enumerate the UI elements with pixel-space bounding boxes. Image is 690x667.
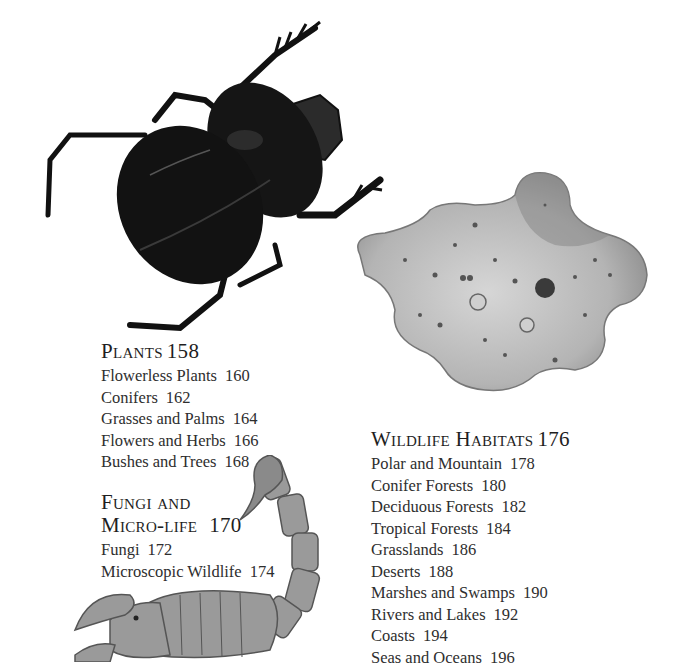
section-title: Plants (101, 339, 163, 363)
entry-page: 162 (166, 388, 191, 407)
entry-label: Tropical Forests (371, 519, 478, 538)
entry-label: Conifers (101, 388, 158, 407)
beetle-illustration (20, 10, 400, 340)
section-page: 176 (537, 427, 569, 451)
toc-section-fungi: Fungi and Micro-life170 Fungi172 Microsc… (101, 491, 274, 582)
entry-page: 182 (501, 497, 526, 516)
toc-entry[interactable]: Fungi172 (101, 539, 274, 561)
entry-page: 192 (494, 605, 519, 624)
section-page: 170 (209, 513, 241, 537)
entry-page: 194 (423, 626, 448, 645)
entry-page: 174 (250, 562, 275, 581)
entry-page: 164 (233, 409, 258, 428)
entry-label: Deciduous Forests (371, 497, 493, 516)
entry-page: 172 (148, 540, 173, 559)
entry-list: Fungi172 Microscopic Wildlife174 (101, 539, 274, 582)
entry-label: Rivers and Lakes (371, 605, 486, 624)
entry-label: Flowers and Herbs (101, 431, 226, 450)
entry-list: Flowerless Plants160 Conifers162 Grasses… (101, 365, 258, 473)
toc-entry[interactable]: Bushes and Trees168 (101, 451, 258, 473)
toc-entry[interactable]: Deciduous Forests182 (371, 496, 570, 518)
entry-page: 166 (234, 431, 259, 450)
toc-entry[interactable]: Coasts194 (371, 625, 570, 647)
section-heading: Fungi and Micro-life170 (101, 491, 274, 537)
entry-label: Coasts (371, 626, 415, 645)
toc-entry[interactable]: Conifers162 (101, 387, 258, 409)
entry-label: Deserts (371, 562, 420, 581)
toc-entry[interactable]: Seas and Oceans196 (371, 647, 570, 667)
toc-entry[interactable]: Microscopic Wildlife174 (101, 561, 274, 583)
toc-entry[interactable]: Rivers and Lakes192 (371, 604, 570, 626)
entry-page: 190 (523, 583, 548, 602)
section-heading: Wildlife Habitats176 (371, 428, 570, 451)
toc-entry[interactable]: Tropical Forests184 (371, 518, 570, 540)
amoeba-illustration (345, 165, 655, 400)
entry-page: 160 (225, 366, 250, 385)
toc-entry[interactable]: Flowers and Herbs166 (101, 430, 258, 452)
entry-page: 188 (428, 562, 453, 581)
section-heading: Plants158 (101, 340, 258, 363)
toc-entry[interactable]: Flowerless Plants160 (101, 365, 258, 387)
entry-label: Bushes and Trees (101, 452, 217, 471)
toc-entry[interactable]: Grasslands186 (371, 539, 570, 561)
toc-entry[interactable]: Conifer Forests180 (371, 475, 570, 497)
section-title-line2: Micro-life (101, 513, 197, 537)
section-page: 158 (167, 339, 199, 363)
entry-label: Conifer Forests (371, 476, 473, 495)
entry-label: Polar and Mountain (371, 454, 502, 473)
entry-page: 180 (481, 476, 506, 495)
entry-label: Fungi (101, 540, 140, 559)
entry-label: Grasses and Palms (101, 409, 225, 428)
toc-section-habitats: Wildlife Habitats176 Polar and Mountain1… (371, 428, 570, 667)
entry-list: Polar and Mountain178 Conifer Forests180… (371, 453, 570, 667)
entry-label: Grasslands (371, 540, 443, 559)
entry-page: 168 (225, 452, 250, 471)
entry-label: Marshes and Swamps (371, 583, 515, 602)
entry-label: Seas and Oceans (371, 648, 482, 667)
entry-page: 178 (510, 454, 535, 473)
toc-entry[interactable]: Marshes and Swamps190 (371, 582, 570, 604)
toc-entry[interactable]: Grasses and Palms164 (101, 408, 258, 430)
entry-page: 184 (486, 519, 511, 538)
section-title: Wildlife Habitats (371, 427, 533, 451)
entry-page: 196 (490, 648, 515, 667)
entry-page: 186 (451, 540, 476, 559)
section-title-line1: Fungi and (101, 490, 191, 514)
toc-entry[interactable]: Deserts188 (371, 561, 570, 583)
toc-entry[interactable]: Polar and Mountain178 (371, 453, 570, 475)
toc-section-plants: Plants158 Flowerless Plants160 Conifers1… (101, 340, 258, 473)
entry-label: Microscopic Wildlife (101, 562, 242, 581)
entry-label: Flowerless Plants (101, 366, 217, 385)
